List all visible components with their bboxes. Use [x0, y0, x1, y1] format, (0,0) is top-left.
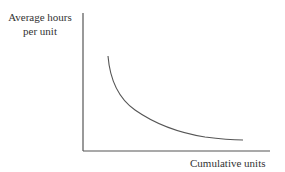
chart-plot-area — [0, 0, 285, 172]
x-axis-label: Cumulative units — [190, 157, 265, 169]
learning-curve-line — [108, 56, 243, 140]
